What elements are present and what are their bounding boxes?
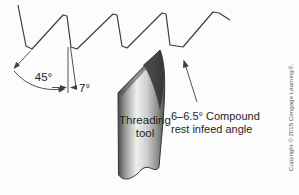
diagram-canvas: 45° 7° Threading tool 6–6.5° Compound re… xyxy=(0,0,299,195)
infeed-arrow-shaft xyxy=(185,64,197,102)
thread-infeed-diagram: 45° 7° Threading tool 6–6.5° Compound re… xyxy=(0,0,299,195)
infeed-label-line2: rest infeed angle xyxy=(171,123,252,135)
infeed-arrowhead xyxy=(181,59,189,68)
flank-angle-label: 45° xyxy=(35,71,52,83)
relief-extension-line xyxy=(71,47,77,88)
infeed-label-line1: 6–6.5° Compound xyxy=(171,110,260,122)
relief-angle-label: 7° xyxy=(79,82,90,94)
copyright-text: Copyright © 2015 Cengage Learning®. xyxy=(287,64,294,171)
relief-right-arrowhead xyxy=(70,85,77,90)
tool-label-line2: tool xyxy=(136,127,155,139)
tool-label-line1: Threading xyxy=(119,114,171,126)
thread-profile-outline xyxy=(18,5,230,49)
